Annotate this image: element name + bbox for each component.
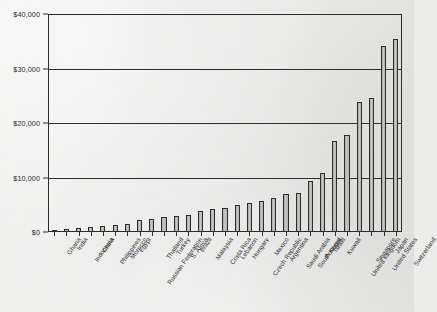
bar-slot: [194, 14, 206, 232]
bar-slot: [353, 14, 365, 232]
bar-slot: [182, 14, 194, 232]
y-axis-tick-label: $20,000: [0, 119, 40, 128]
bar-slot: [207, 14, 219, 232]
bar: [357, 102, 362, 232]
bar-slot: [158, 14, 170, 232]
x-axis-tick-label: China: [100, 236, 115, 254]
bar: [271, 198, 276, 232]
y-axis-tick-label: $10,000: [0, 173, 40, 182]
y-tick-mark: [43, 68, 48, 69]
bar: [283, 194, 288, 232]
y-tick-mark: [43, 14, 48, 15]
bar-slot: [341, 14, 353, 232]
bar: [393, 39, 398, 232]
bar-slot: [72, 14, 84, 232]
bar-slot: [378, 14, 390, 232]
bar: [247, 203, 252, 232]
bar: [125, 224, 130, 232]
bar: [296, 193, 301, 232]
bar-slot: [268, 14, 280, 232]
bar-slot: [85, 14, 97, 232]
bar: [344, 135, 349, 232]
bar: [174, 216, 179, 232]
bar: [369, 98, 374, 232]
bar-series: [48, 14, 402, 232]
bar-slot: [133, 14, 145, 232]
bar: [320, 173, 325, 232]
bar-slot: [231, 14, 243, 232]
y-tick-mark: [43, 232, 48, 233]
bar-slot: [390, 14, 402, 232]
y-axis-tick-label: $40,000: [0, 10, 40, 19]
y-tick-mark: [43, 177, 48, 178]
bar: [381, 46, 386, 232]
bar-slot: [48, 14, 60, 232]
y-axis-tick-label: $30,000: [0, 64, 40, 73]
bar-slot: [280, 14, 292, 232]
bar-slot: [146, 14, 158, 232]
y-axis-tick-label: $0: [0, 228, 40, 237]
bar: [308, 181, 313, 232]
x-axis-labels: GhanaIndiaIndonesiaChinaPhilippinesMoroc…: [48, 236, 402, 312]
x-axis-tick-label: Kuwait: [346, 236, 363, 256]
bar: [332, 141, 337, 232]
bar-slot: [121, 14, 133, 232]
bar-slot: [329, 14, 341, 232]
bar-slot: [109, 14, 121, 232]
bar-slot: [97, 14, 109, 232]
bar: [210, 209, 215, 232]
bar-slot: [60, 14, 72, 232]
bar: [235, 205, 240, 232]
bar: [137, 220, 142, 232]
bar: [149, 219, 154, 232]
bar-slot: [256, 14, 268, 232]
bar-slot: [304, 14, 316, 232]
bar: [161, 217, 166, 232]
bar-slot: [292, 14, 304, 232]
bar-slot: [317, 14, 329, 232]
bar-slot: [365, 14, 377, 232]
bar-slot: [243, 14, 255, 232]
bar-slot: [219, 14, 231, 232]
bar: [186, 215, 191, 232]
bar: [259, 201, 264, 232]
bar-slot: [170, 14, 182, 232]
bar: [222, 208, 227, 232]
bar: [198, 211, 203, 232]
y-tick-mark: [43, 123, 48, 124]
